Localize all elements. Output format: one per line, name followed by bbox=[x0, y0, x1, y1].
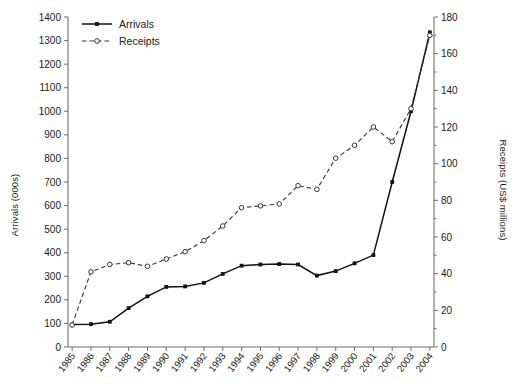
series-line-arrivals bbox=[72, 32, 430, 324]
x-axis-tick-label: 2003 bbox=[394, 350, 416, 373]
right-axis-tick-label: 0 bbox=[441, 342, 447, 353]
data-point-receipts bbox=[183, 249, 188, 254]
right-axis-tick-label: 60 bbox=[441, 232, 453, 243]
data-point-receipts bbox=[333, 156, 338, 161]
series-line-receipts bbox=[72, 35, 430, 325]
data-point-arrivals bbox=[296, 263, 300, 267]
x-axis-tick-label: 2000 bbox=[338, 350, 360, 373]
data-point-arrivals bbox=[334, 269, 338, 273]
data-point-receipts bbox=[126, 260, 131, 265]
right-axis-tick-label: 20 bbox=[441, 305, 453, 316]
data-point-arrivals bbox=[108, 320, 112, 324]
data-point-receipts bbox=[202, 238, 207, 243]
left-axis-tick-label: 400 bbox=[44, 247, 61, 258]
data-point-receipts bbox=[352, 143, 357, 148]
data-point-receipts bbox=[409, 106, 414, 111]
data-point-receipts bbox=[220, 224, 225, 229]
left-axis-tick-label: 600 bbox=[44, 200, 61, 211]
data-point-receipts bbox=[108, 262, 113, 267]
x-axis-tick-label: 1992 bbox=[187, 350, 209, 373]
chart-legend: ArrivalsReceipts bbox=[82, 18, 160, 47]
data-point-receipts bbox=[371, 125, 376, 130]
right-axis-tick-label: 100 bbox=[441, 158, 458, 169]
data-point-arrivals bbox=[183, 285, 187, 289]
x-axis-tick-label: 1998 bbox=[300, 350, 322, 373]
left-axis-tick-label: 800 bbox=[44, 153, 61, 164]
x-axis-tick-label: 1995 bbox=[244, 350, 266, 373]
left-axis-tick-label: 900 bbox=[44, 129, 61, 140]
data-point-receipts bbox=[277, 202, 282, 207]
data-point-receipts bbox=[89, 270, 94, 275]
data-point-arrivals bbox=[259, 263, 263, 267]
x-axis-tick-label: 1985 bbox=[56, 350, 78, 373]
x-axis-tick-label: 2001 bbox=[357, 350, 379, 373]
data-point-arrivals bbox=[277, 262, 281, 266]
data-point-arrivals bbox=[240, 264, 244, 268]
data-point-receipts bbox=[145, 264, 150, 269]
dual-axis-line-chart: 0100200300400500600700800900100011001200… bbox=[0, 0, 516, 389]
left-axis-tick-label: 200 bbox=[44, 294, 61, 305]
series-layer bbox=[70, 30, 432, 327]
data-point-arrivals bbox=[353, 261, 357, 265]
x-axis-tick-label: 1989 bbox=[131, 350, 153, 373]
left-axis: 0100200300400500600700800900100011001200… bbox=[39, 12, 68, 353]
chart-figure: 0100200300400500600700800900100011001200… bbox=[0, 0, 516, 389]
right-axis-tick-label: 140 bbox=[441, 85, 458, 96]
x-axis-tick-label: 2002 bbox=[376, 350, 398, 373]
x-axis-tick-label: 1990 bbox=[150, 350, 172, 373]
data-point-arrivals bbox=[371, 253, 375, 257]
left-axis-tick-label: 1000 bbox=[39, 106, 62, 117]
x-axis-tick-label: 1993 bbox=[206, 350, 228, 373]
x-axis-tick-label: 1994 bbox=[225, 350, 247, 373]
right-axis-title: Receipts (US$ millions) bbox=[498, 139, 509, 240]
x-axis-tick-label: 1988 bbox=[112, 350, 134, 373]
x-axis: 1985198619871988198919901991199219931994… bbox=[56, 347, 435, 374]
data-point-receipts bbox=[428, 33, 433, 38]
right-axis-tick-label: 180 bbox=[441, 12, 458, 23]
data-point-receipts bbox=[70, 323, 75, 328]
x-axis-tick-label: 2004 bbox=[413, 350, 435, 373]
left-axis-tick-label: 1100 bbox=[39, 82, 61, 93]
left-axis-tick-label: 100 bbox=[44, 318, 61, 329]
left-axis-tick-label: 300 bbox=[44, 271, 61, 282]
x-axis-tick-label: 1987 bbox=[93, 350, 115, 373]
right-axis-tick-label: 120 bbox=[441, 122, 458, 133]
legend-label-receipts: Receipts bbox=[119, 35, 160, 47]
data-point-arrivals bbox=[315, 274, 319, 278]
data-point-arrivals bbox=[127, 306, 131, 310]
data-point-receipts bbox=[390, 139, 395, 144]
x-axis-tick-label: 1986 bbox=[74, 350, 96, 373]
right-axis: 020406080100120140160180 bbox=[434, 12, 458, 353]
x-axis-tick-label: 1999 bbox=[319, 350, 341, 373]
right-axis-tick-label: 40 bbox=[441, 268, 453, 279]
left-axis-tick-label: 700 bbox=[44, 177, 61, 188]
x-axis-tick-label: 1991 bbox=[168, 350, 190, 373]
data-point-receipts bbox=[239, 205, 244, 210]
left-axis-tick-label: 500 bbox=[44, 224, 61, 235]
data-point-receipts bbox=[315, 187, 320, 192]
data-point-arrivals bbox=[390, 180, 394, 184]
left-axis-tick-label: 0 bbox=[55, 342, 61, 353]
data-point-arrivals bbox=[221, 272, 225, 276]
data-point-arrivals bbox=[89, 322, 93, 326]
right-axis-tick-label: 80 bbox=[441, 195, 453, 206]
x-axis-tick-label: 1996 bbox=[263, 350, 285, 373]
right-axis-tick-label: 160 bbox=[441, 48, 458, 59]
data-point-arrivals bbox=[146, 294, 150, 298]
legend-swatch-marker bbox=[95, 39, 100, 44]
legend-label-arrivals: Arrivals bbox=[119, 18, 154, 30]
data-point-receipts bbox=[164, 257, 169, 262]
left-axis-tick-label: 1200 bbox=[39, 59, 62, 70]
data-point-receipts bbox=[296, 183, 301, 188]
left-axis-title: Arrivals (000s) bbox=[9, 174, 20, 237]
data-point-arrivals bbox=[202, 281, 206, 285]
left-axis-tick-label: 1400 bbox=[39, 12, 62, 23]
data-point-arrivals bbox=[164, 285, 168, 289]
legend-swatch-marker bbox=[95, 22, 99, 26]
left-axis-tick-label: 1300 bbox=[39, 35, 62, 46]
x-axis-tick-label: 1997 bbox=[281, 350, 303, 373]
data-point-receipts bbox=[258, 204, 263, 209]
